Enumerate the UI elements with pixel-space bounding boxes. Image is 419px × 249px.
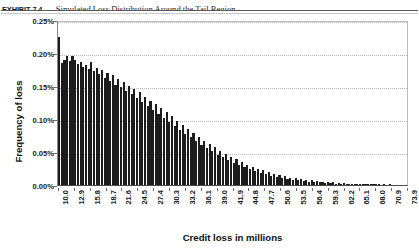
x-tick-label: 50.6 [283, 190, 292, 205]
x-tick-mark [121, 188, 122, 191]
x-tick-label: 59.3 [331, 190, 340, 205]
y-tick-mark [52, 87, 57, 88]
x-tick-label: 18.7 [109, 190, 118, 205]
header-divider-rule-secondary [1, 13, 418, 14]
x-tick-label: 10.0 [61, 190, 70, 205]
x-tick-label: 24.5 [140, 190, 149, 205]
x-tick-mark [169, 188, 170, 191]
y-tick-label: 0.05% [32, 149, 54, 158]
y-tick-label: 0.20% [32, 50, 54, 59]
x-tick-mark [312, 188, 313, 191]
x-tick-label: 15.8 [93, 190, 102, 205]
x-tick-mark [264, 188, 265, 191]
x-tick-mark [359, 188, 360, 191]
x-tick-label: 73.9 [410, 190, 419, 205]
x-tick-mark [185, 188, 186, 191]
x-tick-label: 53.5 [299, 190, 308, 205]
x-tick-label: 39.0 [220, 190, 229, 205]
x-tick-label: 62.2 [347, 190, 356, 205]
x-tick-mark [106, 188, 107, 191]
x-tick-label: 12.9 [77, 190, 86, 205]
x-tick-label: 27.4 [156, 190, 165, 205]
x-tick-label: 70.9 [394, 190, 403, 205]
x-tick-label: 47.7 [267, 190, 276, 205]
x-tick-mark [375, 188, 376, 191]
y-tick-mark [52, 186, 57, 187]
y-tick-mark [52, 54, 57, 55]
x-tick-mark [74, 188, 75, 191]
x-tick-label: 68.0 [378, 190, 387, 205]
x-tick-mark [407, 188, 408, 191]
y-tick-mark [52, 21, 57, 22]
bar [383, 184, 385, 185]
y-tick-label: 0.10% [32, 116, 54, 125]
y-tick-mark [52, 120, 57, 121]
bar [378, 184, 380, 185]
bar [389, 184, 391, 185]
x-tick-mark [328, 188, 329, 191]
x-tick-mark [344, 188, 345, 191]
y-tick-label: 0.25% [32, 17, 54, 26]
x-tick-mark [296, 188, 297, 191]
exhibit-header: EXHIBIT 7.4 Simulated Loss Distribution … [0, 0, 419, 10]
x-tick-mark [391, 188, 392, 191]
x-tick-mark [217, 188, 218, 191]
x-tick-mark [153, 188, 154, 191]
x-tick-mark [137, 188, 138, 191]
x-tick-mark [58, 188, 59, 191]
x-tick-label: 56.4 [315, 190, 324, 205]
y-tick-label: 0.15% [32, 83, 54, 92]
x-tick-label: 36.1 [204, 190, 213, 205]
x-tick-label: 33.2 [188, 190, 197, 205]
x-tick-label: 41.9 [236, 190, 245, 205]
x-tick-label: 65.1 [362, 190, 371, 205]
y-tick-mark [52, 153, 57, 154]
x-tick-label: 44.8 [251, 190, 260, 205]
histogram-chart: Frequency of loss 0.25%0.20%0.15%0.10%0.… [0, 16, 419, 249]
x-tick-mark [201, 188, 202, 191]
header-divider-rule [1, 10, 418, 11]
bar-series [58, 22, 407, 185]
x-tick-mark [90, 188, 91, 191]
y-axis-tick-labels: 0.25%0.20%0.15%0.10%0.05%0.00% [14, 16, 54, 186]
x-tick-mark [280, 188, 281, 191]
x-tick-mark [248, 188, 249, 191]
x-axis-title: Credit loss in millions [57, 232, 408, 243]
x-tick-label: 21.6 [124, 190, 133, 205]
plot-area [57, 21, 408, 186]
x-axis-tick-labels: 10.012.915.818.721.624.527.430.333.236.1… [57, 188, 408, 232]
x-tick-mark [233, 188, 234, 191]
y-tick-label: 0.00% [32, 182, 54, 191]
x-tick-label: 30.3 [172, 190, 181, 205]
